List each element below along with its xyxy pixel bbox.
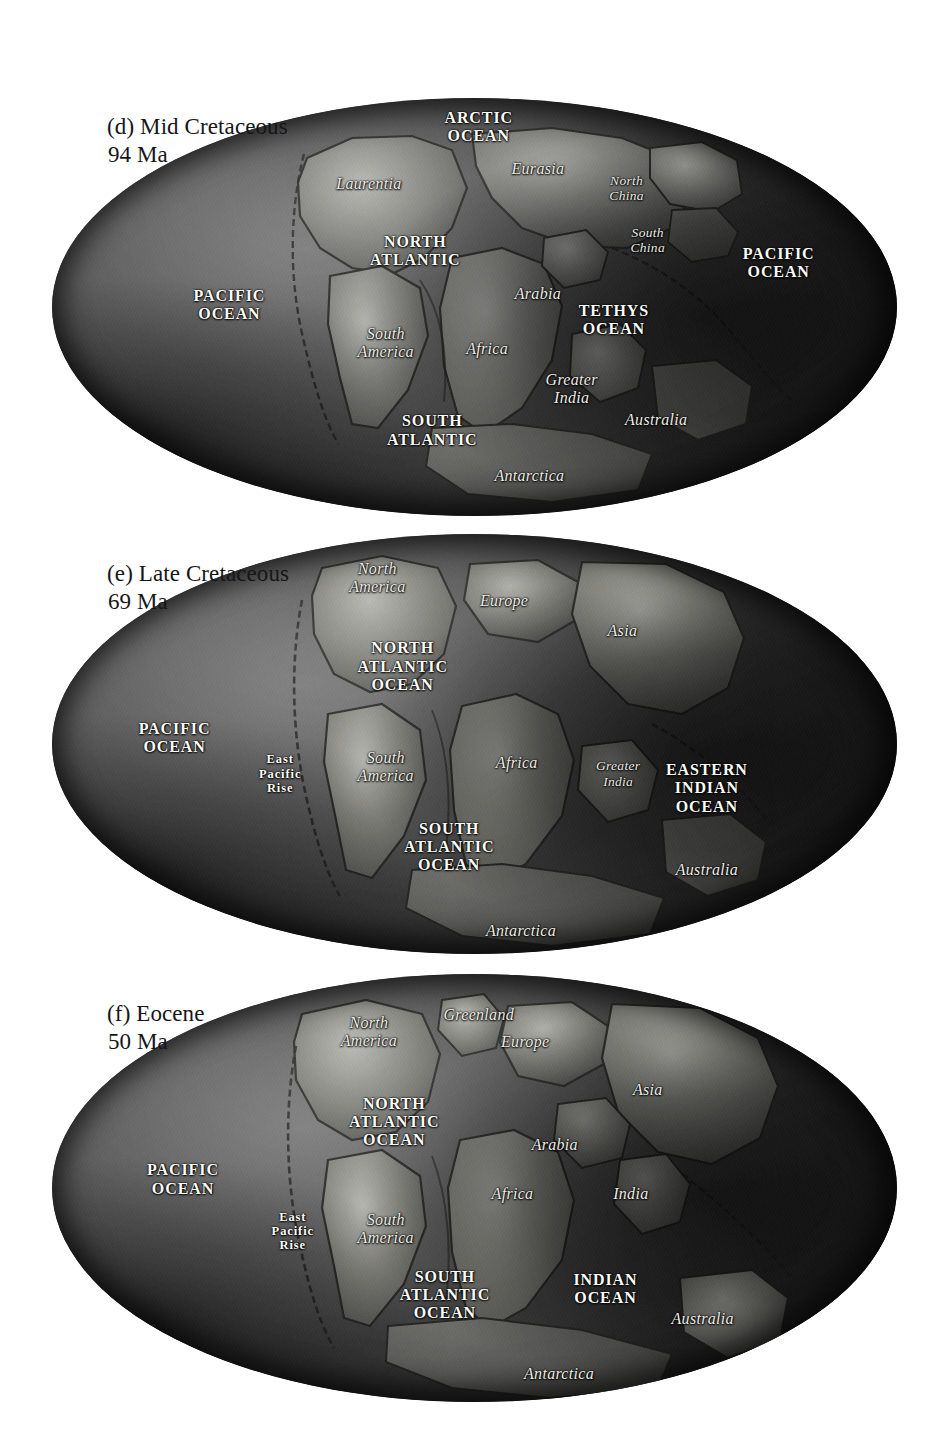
panel-f-caption: (f) Eocene50 Ma xyxy=(72,972,205,1112)
panel-late-cretaceous: (e) Late Cretaceous69 Ma xyxy=(0,520,944,960)
panel-e-caption-line2: 69 Ma xyxy=(72,588,289,616)
panel-eocene: (f) Eocene50 Ma xyxy=(0,958,944,1408)
panel-d-caption: (d) Mid Cretaceous94 Ma xyxy=(72,85,288,225)
panel-f-caption-line1: (f) Eocene xyxy=(107,1001,204,1026)
panel-e-caption: (e) Late Cretaceous69 Ma xyxy=(72,532,289,672)
panel-mid-cretaceous: (d) Mid Cretaceous94 Ma xyxy=(0,60,944,520)
paleogeographic-figure: (d) Mid Cretaceous94 Ma xyxy=(0,0,944,1431)
panel-e-caption-line1: (e) Late Cretaceous xyxy=(107,561,289,586)
panel-d-caption-line1: (d) Mid Cretaceous xyxy=(107,114,288,139)
panel-f-caption-line2: 50 Ma xyxy=(72,1028,205,1056)
panel-d-caption-line2: 94 Ma xyxy=(72,141,288,169)
